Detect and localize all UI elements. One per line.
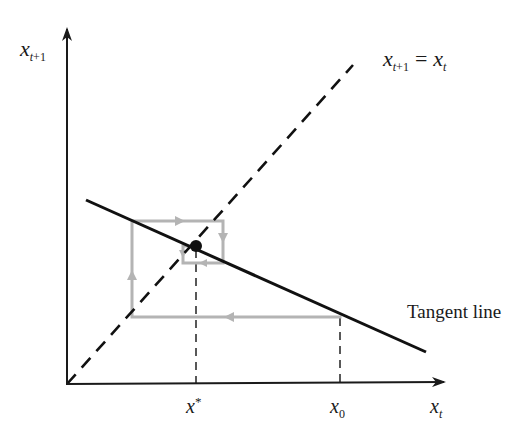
- arrow-up-icon: [127, 270, 137, 280]
- x0-sub: 0: [339, 407, 345, 421]
- xstar-base: x: [186, 395, 195, 417]
- arrow-down-icon: [218, 233, 228, 243]
- xstar-tick-label: x*: [186, 396, 201, 416]
- x0-base: x: [330, 395, 339, 417]
- identity-rhs-sub-var: t: [443, 60, 446, 74]
- arrow-right-icon: [175, 216, 185, 226]
- x0-tick-label: x0: [330, 396, 345, 416]
- tangent-line: [86, 200, 426, 352]
- arrow-left-icon: [224, 312, 234, 322]
- y-axis-label: xt+1: [20, 38, 46, 60]
- x-label-sub-var: t: [439, 407, 442, 421]
- fixed-point-dot: [190, 240, 202, 252]
- identity-lhs-base: x: [383, 46, 393, 71]
- identity-line: [67, 65, 353, 384]
- x-axis-label: xt: [430, 396, 442, 416]
- arrow-left-icon: [199, 259, 207, 267]
- y-label-sub-rest: +1: [33, 50, 46, 64]
- identity-rhs-base: x: [433, 46, 443, 71]
- cobweb-direction-arrows: [127, 216, 234, 322]
- x-axis: [66, 382, 444, 384]
- xstar-sup: *: [195, 394, 202, 409]
- y-label-base: x: [20, 36, 30, 61]
- tangent-line-label: Tangent line: [407, 302, 501, 321]
- identity-lhs-sub-rest: +1: [396, 60, 409, 74]
- identity-equals: =: [415, 46, 427, 71]
- identity-line-label: xt+1=xt: [383, 48, 446, 70]
- x-label-base: x: [430, 395, 439, 417]
